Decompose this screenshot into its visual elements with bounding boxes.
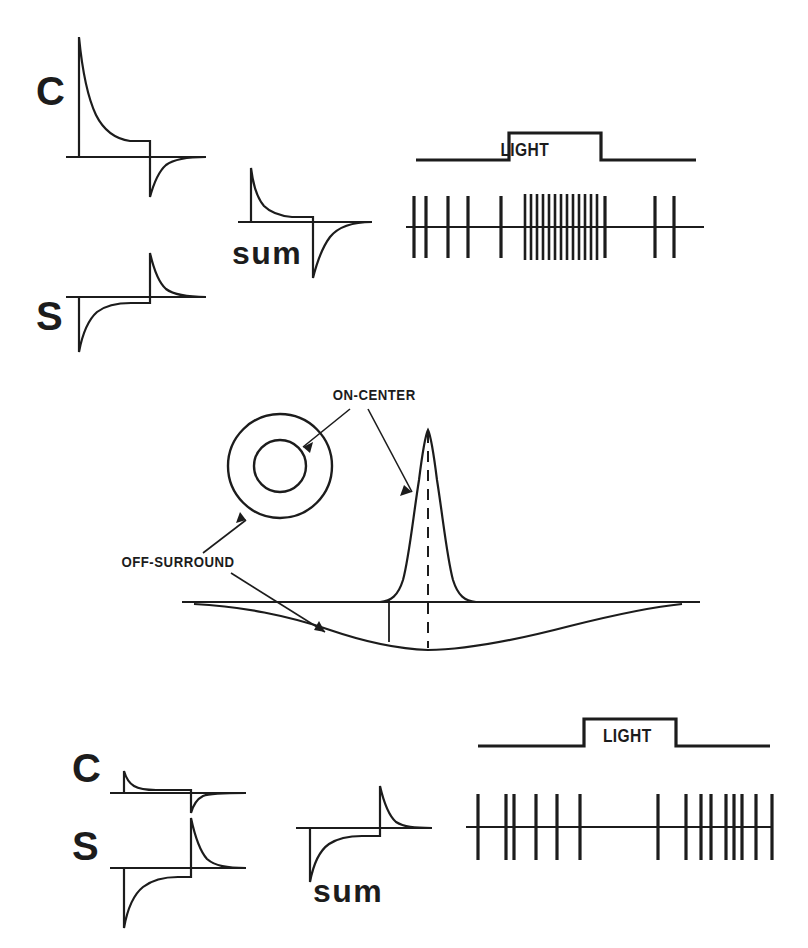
on-center-arrowhead-curve [400,485,412,496]
bottom-panel: C S sum LIGHT [72,719,772,928]
rf-surround-lobe [194,604,682,650]
bottom-sum-trace [310,786,432,882]
top-light-bar [416,133,696,160]
top-center-trace [79,37,206,197]
figure-root: C S sum LIGHT [0,0,808,948]
on-center-text: ON-CENTER [333,386,416,403]
top-sum-label: sum [232,235,302,271]
on-center-circle [254,440,306,492]
bottom-surround-trace [124,818,246,928]
off-surround-circle [228,414,332,518]
top-light-label: LIGHT [500,139,549,161]
bottom-center-label: C [72,746,101,790]
middle-panel: ON-CENTER OFF-SURROUND [121,386,700,650]
top-center-label: C [36,69,65,113]
on-center-leader-curve [368,409,412,492]
bottom-light-label: LIGHT [603,725,652,747]
off-surround-text: OFF-SURROUND [121,553,234,570]
off-surround-leader-circle [203,520,246,553]
top-panel: C S sum LIGHT [36,37,704,352]
figure-svg: C S sum LIGHT [0,0,808,948]
bottom-surround-label: S [72,824,99,868]
bottom-sum-label: sum [313,873,383,909]
top-surround-label: S [36,294,63,338]
top-surround-trace [79,253,206,352]
